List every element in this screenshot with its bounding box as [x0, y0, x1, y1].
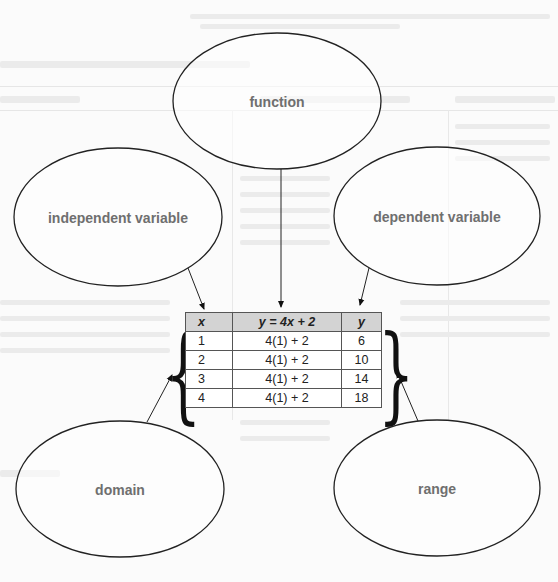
range-label: range — [418, 481, 456, 497]
table-header-row: x y = 4x + 2 y — [186, 313, 382, 332]
header-equation: y = 4x + 2 — [233, 313, 342, 332]
function-table: x y = 4x + 2 y 1 4(1) + 2 6 2 4(1) + 2 1… — [185, 312, 382, 408]
domain-label: domain — [95, 482, 145, 498]
independent-variable-label: independent variable — [48, 210, 188, 226]
cell-x: 1 — [186, 332, 233, 351]
diagram-lines — [0, 0, 558, 582]
cell-y: 10 — [342, 351, 382, 370]
cell-equation: 4(1) + 2 — [233, 370, 342, 389]
cell-y: 6 — [342, 332, 382, 351]
table-row: 3 4(1) + 2 14 — [186, 370, 382, 389]
function-label: function — [249, 94, 304, 110]
table-row: 1 4(1) + 2 6 — [186, 332, 382, 351]
arrow-independent-to-x — [188, 268, 204, 309]
cell-y: 14 — [342, 370, 382, 389]
cell-x: 2 — [186, 351, 233, 370]
arrow-dependent-to-y — [360, 268, 369, 305]
cell-y: 18 — [342, 389, 382, 408]
cell-x: 3 — [186, 370, 233, 389]
right-brace: } — [378, 322, 414, 426]
table-row: 2 4(1) + 2 10 — [186, 351, 382, 370]
table-row: 4 4(1) + 2 18 — [186, 389, 382, 408]
cell-equation: 4(1) + 2 — [233, 332, 342, 351]
cell-equation: 4(1) + 2 — [233, 389, 342, 408]
cell-equation: 4(1) + 2 — [233, 351, 342, 370]
header-y: y — [342, 313, 382, 332]
cell-x: 4 — [186, 389, 233, 408]
header-x: x — [186, 313, 233, 332]
dependent-variable-label: dependent variable — [373, 209, 501, 225]
